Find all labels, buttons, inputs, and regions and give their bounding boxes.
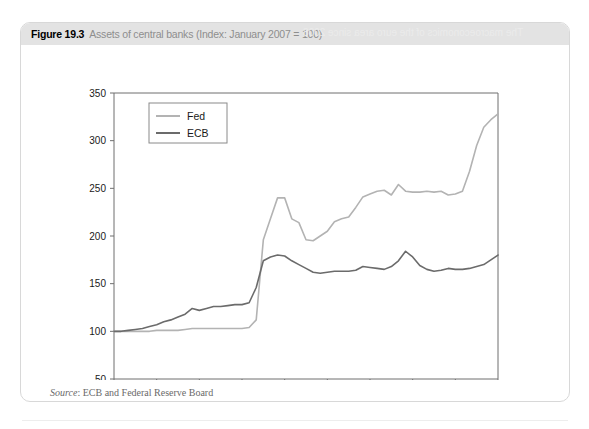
y-axis-tick-label: 300	[89, 135, 106, 146]
chart-plot-area: 501001502002503003502007-012007-072008-0…	[21, 45, 569, 380]
source-note: Source: ECB and Federal Reserve Board	[50, 387, 213, 398]
y-axis-tick-label: 100	[89, 326, 106, 337]
figure-caption: Assets of central banks (Index: January …	[89, 28, 322, 40]
page-divider-rule	[22, 420, 568, 421]
figure-header-bar: Figure 19.3 Assets of central banks (Ind…	[21, 23, 569, 45]
figure-container: Figure 19.3 Assets of central banks (Ind…	[20, 22, 570, 402]
series-line-fed	[114, 114, 498, 331]
y-axis-tick-label: 150	[89, 278, 106, 289]
figure-number: Figure 19.3	[31, 28, 84, 40]
legend-label-fed: Fed	[187, 110, 205, 122]
line-chart: 501001502002503003502007-012007-072008-0…	[21, 45, 570, 380]
y-axis-tick-label: 200	[89, 231, 106, 242]
y-axis-tick-label: 350	[89, 88, 106, 99]
y-axis-tick-label: 250	[89, 183, 106, 194]
source-label: Source	[50, 387, 77, 398]
legend-label-ecb: ECB	[187, 127, 209, 139]
series-line-ecb	[114, 251, 498, 331]
y-axis-tick-label: 50	[95, 374, 107, 381]
source-text: : ECB and Federal Reserve Board	[77, 387, 213, 398]
